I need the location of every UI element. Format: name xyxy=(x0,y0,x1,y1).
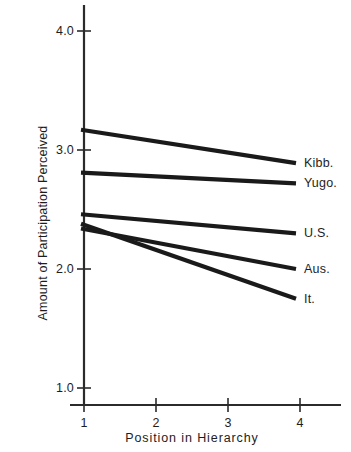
y-axis-title: Amount of Participation Perceived xyxy=(36,98,50,348)
y-tick-label: 4.0 xyxy=(28,24,74,38)
x-axis-title: Position in Hierarchy xyxy=(84,431,300,445)
series-lines xyxy=(81,130,296,299)
series-label-yugo: Yugo. xyxy=(304,176,337,190)
axes xyxy=(70,5,341,405)
y-tick-label: 1.0 xyxy=(28,381,74,395)
x-tick-label: 1 xyxy=(80,416,87,430)
series-line-us xyxy=(81,214,296,233)
x-tick-label: 2 xyxy=(152,416,159,430)
tick-marks xyxy=(77,31,300,412)
x-tick-label: 3 xyxy=(224,416,231,430)
series-line-yugo xyxy=(81,173,296,184)
participation-hierarchy-chart: 1.02.03.04.0 1234 Kibb.Yugo.U.S.Aus.It. … xyxy=(0,0,351,452)
series-label-it: It. xyxy=(304,292,315,306)
series-label-kibb: Kibb. xyxy=(304,156,334,170)
series-line-kibb xyxy=(81,130,296,163)
series-label-us: U.S. xyxy=(304,226,329,240)
series-label-aus: Aus. xyxy=(304,262,330,276)
y-tick-label: 2.0 xyxy=(28,262,74,276)
x-tick-label: 4 xyxy=(296,416,303,430)
y-tick-label: 3.0 xyxy=(28,143,74,157)
